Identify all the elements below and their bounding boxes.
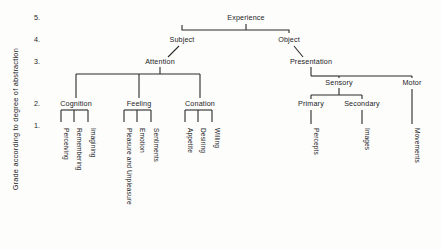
level-number: 1.	[34, 122, 40, 129]
node-conation: Conation	[185, 100, 215, 107]
leaf-sentiments: Sentiments	[153, 128, 160, 162]
level-number: 5.	[34, 14, 40, 21]
level-number: 4.	[34, 36, 40, 43]
tree-connector-lines	[0, 0, 441, 250]
node-object: Object	[278, 36, 300, 43]
diagram-canvas: Grade according to degree of abstraction…	[0, 0, 441, 250]
leaf-percepts: Percepts	[313, 128, 320, 155]
leaf-appetite: Appetite	[187, 128, 194, 153]
leaf-willing: Willing	[214, 128, 221, 148]
node-presentation: Presentation	[290, 58, 332, 65]
node-feeling: Feeling	[127, 100, 152, 107]
leaf-desiring: Desiring	[200, 128, 207, 153]
leaf-emotion: Emotion	[139, 128, 146, 153]
leaf-remembering: Remembering	[76, 128, 83, 171]
level-number: 3.	[34, 58, 40, 65]
node-experience: Experience	[227, 14, 264, 21]
node-cognition: Cognition	[60, 100, 92, 107]
node-motor: Motor	[402, 79, 421, 86]
level-number: 2.	[34, 100, 40, 107]
leaf-images: Images	[364, 128, 371, 150]
node-attention: Attention	[145, 58, 175, 65]
leaf-imagining: Imagining	[90, 128, 97, 158]
node-secondary: Secondary	[344, 100, 380, 107]
node-subject: Subject	[169, 36, 194, 43]
leaf-movements: Movements	[414, 128, 421, 163]
axis-label-grade-of-abstraction: Grade according to degree of abstraction	[12, 48, 19, 190]
node-sensory: Sensory	[325, 79, 352, 86]
leaf-perceiving: Perceiving	[63, 128, 70, 160]
leaf-pleasure: Pleasure and Unpleasure	[126, 128, 133, 205]
node-primary: Primary	[298, 100, 324, 107]
